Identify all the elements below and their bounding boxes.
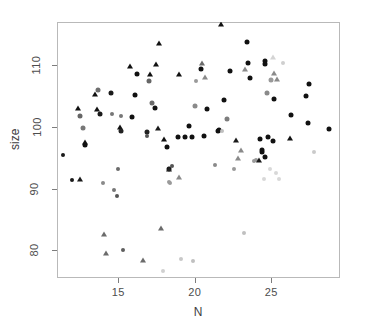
data-point — [242, 231, 246, 235]
data-point — [204, 106, 209, 111]
data-point — [305, 120, 310, 125]
y-tick-mark — [52, 189, 57, 190]
data-point — [269, 77, 274, 82]
y-tick-label: 100 — [31, 117, 43, 137]
data-point — [218, 22, 224, 26]
data-point — [161, 137, 167, 142]
data-point — [289, 112, 294, 117]
data-point — [268, 167, 272, 171]
data-point — [145, 134, 149, 138]
data-point — [199, 60, 205, 65]
data-point — [161, 269, 165, 273]
data-point — [96, 87, 101, 92]
data-point — [201, 134, 206, 139]
data-point — [191, 259, 195, 263]
data-point — [271, 71, 277, 76]
data-point — [235, 156, 241, 161]
data-point — [176, 72, 182, 77]
data-point — [165, 145, 170, 150]
y-tick-mark — [52, 65, 57, 66]
data-point — [242, 67, 248, 72]
data-point — [307, 81, 312, 86]
data-point — [183, 134, 188, 139]
data-point — [202, 74, 208, 79]
x-tick-mark — [118, 278, 119, 283]
data-point — [147, 71, 153, 76]
data-point — [70, 178, 74, 182]
data-point — [156, 40, 162, 45]
data-point — [327, 127, 332, 132]
y-tick-mark — [52, 250, 57, 251]
data-point — [61, 153, 65, 157]
data-point — [101, 181, 105, 185]
scatter-plot-figure: 152025 8090100110 N size — [0, 0, 366, 331]
data-point — [213, 163, 217, 167]
data-point — [133, 92, 138, 97]
data-point — [281, 61, 285, 65]
data-point — [168, 181, 172, 185]
data-point — [246, 60, 251, 65]
x-tick-label: 15 — [112, 286, 125, 298]
data-point — [92, 92, 98, 97]
data-point — [119, 114, 123, 118]
data-point — [129, 114, 134, 119]
data-point — [179, 257, 183, 261]
data-point — [134, 71, 139, 76]
data-point — [77, 113, 82, 118]
data-point — [272, 97, 277, 102]
data-point — [189, 134, 194, 139]
data-point — [115, 194, 119, 198]
data-point — [277, 177, 281, 181]
data-point — [186, 123, 191, 128]
y-tick-label: 110 — [30, 56, 42, 75]
data-point — [220, 129, 224, 133]
data-point — [263, 61, 268, 66]
data-point — [287, 135, 293, 140]
data-point — [175, 135, 180, 140]
data-point — [158, 226, 164, 231]
data-point — [264, 90, 269, 95]
data-point — [198, 67, 203, 72]
y-tick-mark — [52, 127, 57, 128]
data-points-layer — [57, 22, 340, 278]
data-point — [256, 158, 262, 163]
data-point — [81, 126, 86, 131]
data-point — [262, 177, 266, 181]
data-point — [247, 76, 252, 81]
data-point — [75, 106, 81, 111]
data-point — [263, 155, 268, 160]
data-point — [153, 61, 159, 66]
x-tick-label: 25 — [265, 286, 278, 298]
data-point — [140, 258, 146, 263]
x-tick-label: 20 — [188, 286, 201, 298]
data-point — [119, 128, 124, 133]
data-point — [116, 167, 120, 171]
x-tick-mark — [195, 278, 196, 283]
data-point — [304, 94, 309, 99]
data-point — [238, 147, 244, 152]
data-point — [155, 126, 161, 131]
data-point — [232, 167, 236, 171]
data-point — [170, 164, 174, 168]
x-axis-label: N — [194, 305, 203, 319]
data-point — [233, 137, 239, 142]
data-point — [244, 39, 249, 44]
data-point — [312, 150, 316, 154]
data-point — [152, 106, 157, 111]
y-axis-label: size — [8, 129, 22, 150]
data-point — [77, 177, 83, 182]
data-point — [82, 142, 87, 147]
data-point — [274, 171, 278, 175]
y-tick-label: 90 — [28, 182, 40, 195]
data-point — [227, 69, 232, 74]
data-point — [194, 79, 198, 83]
data-point — [108, 90, 113, 95]
data-point — [224, 117, 229, 122]
data-point — [101, 231, 107, 236]
data-point — [146, 79, 151, 84]
data-point — [192, 103, 197, 108]
data-point — [97, 111, 102, 116]
data-point — [270, 139, 275, 144]
x-tick-mark — [271, 278, 272, 283]
data-point — [110, 112, 114, 116]
